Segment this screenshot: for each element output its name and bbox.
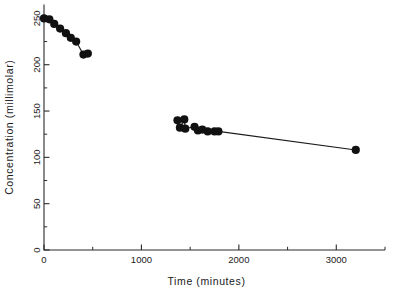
series-2 bbox=[173, 115, 359, 154]
y-axis-title: Concentration (millimolar) bbox=[3, 60, 15, 195]
x-tick-label: 2000 bbox=[228, 254, 249, 265]
y-tick-label: 0 bbox=[31, 247, 42, 252]
x-tick-label: 0 bbox=[41, 254, 46, 265]
series-line bbox=[177, 119, 355, 150]
y-tick-label: 200 bbox=[31, 57, 42, 73]
concentration-vs-time-chart: 0100020003000050100150200250Time (minute… bbox=[0, 0, 396, 292]
x-tick-label: 1000 bbox=[131, 254, 152, 265]
x-tick-label: 3000 bbox=[326, 254, 347, 265]
data-point bbox=[214, 127, 222, 135]
y-tick-label: 150 bbox=[31, 103, 42, 119]
data-point bbox=[84, 50, 92, 58]
data-point bbox=[180, 115, 188, 123]
y-tick-label: 100 bbox=[31, 149, 42, 165]
axis-spines bbox=[44, 5, 385, 251]
series-1 bbox=[40, 14, 92, 58]
x-axis-title: Time (minutes) bbox=[167, 275, 245, 287]
data-point bbox=[352, 146, 360, 154]
y-tick-label: 50 bbox=[31, 198, 42, 209]
data-point bbox=[72, 37, 80, 45]
data-point bbox=[181, 125, 189, 133]
